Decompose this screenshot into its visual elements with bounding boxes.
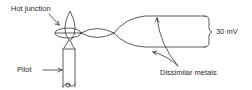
voltage-brace <box>204 16 212 47</box>
hot-junction-ring <box>55 28 81 38</box>
pilot-flame <box>64 11 75 48</box>
pilot-tube <box>63 49 75 87</box>
dissimilar-metals-label: Dissimilar metals <box>160 69 217 77</box>
pilot-label: Pilot <box>17 66 32 74</box>
hot-junction-label: Hot junction <box>11 5 51 13</box>
voltage-label: 30 mV <box>216 28 238 36</box>
thermocouple-diagram: Hot junction Pilot 30 mV Dissimilar meta… <box>0 0 252 90</box>
thermocouple-wires <box>81 16 205 47</box>
